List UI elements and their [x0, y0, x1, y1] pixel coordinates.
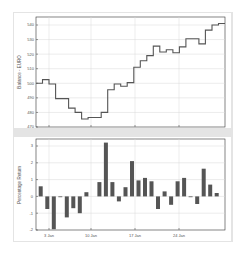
- return-bar: [39, 186, 43, 196]
- return-bar: [130, 161, 134, 196]
- return-bar: [117, 196, 121, 201]
- return-bar: [163, 191, 167, 196]
- return-bar: [65, 196, 69, 217]
- return-bar: [202, 169, 206, 197]
- return-bar: [169, 196, 173, 204]
- return-bar: [143, 178, 147, 197]
- charts-svg: 470480490500510520530540 Balance - EURO …: [0, 0, 243, 253]
- balance-y-tick: 500: [27, 81, 34, 86]
- return-y-label: Percentage Return: [17, 166, 22, 204]
- return-bar: [176, 181, 180, 196]
- return-bar: [195, 196, 199, 204]
- return-bar: [58, 196, 62, 197]
- balance-y-tick: 530: [27, 37, 34, 42]
- return-bar: [150, 181, 154, 196]
- balance-y-tick: 470: [27, 124, 34, 129]
- return-bar: [124, 187, 128, 196]
- return-y-tick: 3: [31, 143, 34, 148]
- balance-y-tick: 480: [27, 110, 34, 115]
- return-bar: [71, 196, 75, 208]
- return-bar: [97, 182, 101, 196]
- return-bar: [110, 182, 114, 196]
- balance-y-tick: 510: [27, 66, 34, 71]
- return-bar: [182, 178, 186, 197]
- return-bar: [84, 192, 88, 196]
- return-bar: [78, 196, 82, 213]
- return-x-tick: 17 Jan: [129, 233, 141, 238]
- return-y-tick: -2: [29, 227, 33, 232]
- balance-y-tick: 540: [27, 22, 34, 27]
- balance-y-label: Balance - EURO: [17, 55, 22, 89]
- return-x-tick: 24 Jan: [173, 233, 185, 238]
- return-y-tick: 2: [31, 160, 34, 165]
- return-y-tick: 1: [31, 177, 34, 182]
- return-bar: [215, 193, 219, 196]
- return-y-tick: 0: [31, 194, 34, 199]
- return-chart: -2-10123 3 Jan10 Jan17 Jan24 Jan Percent…: [17, 139, 225, 238]
- return-bar: [104, 143, 108, 197]
- return-bar: [52, 196, 56, 229]
- return-x-tick: 10 Jan: [85, 233, 97, 238]
- return-bar: [156, 196, 160, 209]
- balance-y-tick: 490: [27, 95, 34, 100]
- return-bar: [189, 196, 193, 197]
- return-bar: [45, 196, 49, 209]
- return-bar: [137, 180, 141, 196]
- return-y-tick: -1: [29, 211, 33, 216]
- return-bar: [208, 185, 212, 197]
- balance-y-tick: 520: [27, 52, 34, 57]
- balance-chart: 470480490500510520530540 Balance - EURO: [17, 17, 225, 129]
- return-x-tick: 3 Jan: [44, 233, 54, 238]
